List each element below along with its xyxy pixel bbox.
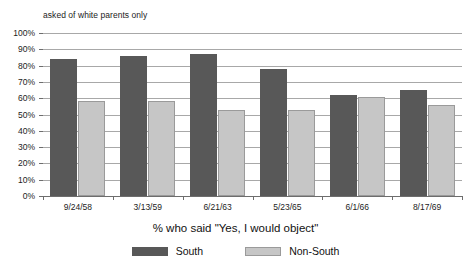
y-tick-mark <box>39 131 43 132</box>
x-tick-mark <box>392 196 393 200</box>
y-tick-mark <box>39 49 43 50</box>
legend-label: South <box>176 245 203 257</box>
y-tick-mark <box>39 66 43 67</box>
y-tick-label: 50% <box>0 110 35 119</box>
x-axis-label: 3/13/59 <box>134 202 162 212</box>
legend-swatch-non-south <box>245 247 281 256</box>
x-axis-title: % who said "Yes, I would object" <box>0 222 471 234</box>
bar-south <box>120 56 147 196</box>
bar-south <box>50 59 77 196</box>
bar-non-south <box>218 110 245 196</box>
x-tick-mark <box>462 196 463 200</box>
legend-item: Non-South <box>245 245 339 257</box>
x-axis-label: 5/23/65 <box>273 202 301 212</box>
bar-group <box>120 33 175 196</box>
y-tick-label: 20% <box>0 159 35 168</box>
y-tick-label: 60% <box>0 94 35 103</box>
bar-groups <box>43 33 462 196</box>
bar-south <box>330 95 357 196</box>
y-tick-mark <box>39 163 43 164</box>
y-tick-label: 0% <box>0 192 35 201</box>
x-axis-label: 6/1/66 <box>345 202 369 212</box>
bar-group <box>400 33 455 196</box>
plot-area <box>43 33 462 196</box>
bar-non-south <box>428 105 455 196</box>
y-tick-mark <box>39 82 43 83</box>
bar-group <box>260 33 315 196</box>
y-tick-label: 90% <box>0 45 35 54</box>
x-tick-mark <box>253 196 254 200</box>
x-axis-label: 9/24/58 <box>64 202 92 212</box>
bar-group <box>190 33 245 196</box>
x-tick-mark <box>183 196 184 200</box>
x-tick-mark <box>113 196 114 200</box>
bar-group <box>50 33 105 196</box>
bar-chart: asked of white parents only 100%90%80%70… <box>0 0 471 268</box>
y-tick-label: 30% <box>0 143 35 152</box>
x-tick-mark <box>322 196 323 200</box>
bar-south <box>260 69 287 196</box>
chart-legend: SouthNon-South <box>0 245 471 257</box>
bar-group <box>330 33 385 196</box>
y-tick-label: 70% <box>0 78 35 87</box>
legend-item: South <box>132 245 203 257</box>
legend-label: Non-South <box>289 245 339 257</box>
y-tick-mark <box>39 33 43 34</box>
y-tick-label: 10% <box>0 175 35 184</box>
x-axis-label: 6/21/63 <box>203 202 231 212</box>
bar-non-south <box>288 110 315 196</box>
bar-non-south <box>358 97 385 196</box>
y-tick-mark <box>39 147 43 148</box>
x-tick-mark <box>43 196 44 200</box>
y-tick-mark <box>39 115 43 116</box>
y-tick-label: 80% <box>0 61 35 70</box>
x-axis-label: 8/17/69 <box>413 202 441 212</box>
bar-non-south <box>148 101 175 196</box>
y-tick-mark <box>39 98 43 99</box>
chart-subtitle: asked of white parents only <box>43 10 147 20</box>
y-tick-label: 100% <box>0 29 35 38</box>
y-tick-label: 40% <box>0 127 35 136</box>
y-tick-mark <box>39 180 43 181</box>
legend-swatch-south <box>132 247 168 256</box>
bar-south <box>190 54 217 196</box>
bar-non-south <box>78 101 105 196</box>
bar-south <box>400 90 427 196</box>
